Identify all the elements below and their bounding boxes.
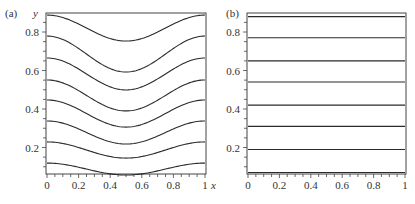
tick-marks xyxy=(243,22,405,178)
x-tick-label: 0 xyxy=(44,179,50,191)
y-tick-label: 0.4 xyxy=(25,103,39,115)
x-tick-label: 0.2 xyxy=(273,179,287,191)
panel-a: 00.20.40.60.810.20.40.60.8(a)yx xyxy=(5,7,216,191)
contour-line xyxy=(47,15,205,41)
contour-line xyxy=(47,58,205,90)
x-tick-label: 0.8 xyxy=(167,179,181,191)
x-tick-label: 0.2 xyxy=(72,179,86,191)
panel-b: 00.20.40.60.810.20.40.60.8(b) xyxy=(226,7,408,191)
y-tick-label: 0.2 xyxy=(25,142,39,154)
plot-frame xyxy=(46,13,206,174)
panel-label: (b) xyxy=(226,7,239,20)
y-tick-label: 0.6 xyxy=(25,65,39,77)
y-tick-label: 0.8 xyxy=(226,26,240,38)
figure: 00.20.40.60.810.20.40.60.8(a)yx00.20.40.… xyxy=(0,0,415,204)
x-tick-label: 0.8 xyxy=(367,179,381,191)
tick-marks xyxy=(42,22,205,178)
x-tick-label: 0.4 xyxy=(304,179,318,191)
y-tick-label: 0.2 xyxy=(226,142,240,154)
x-tick-label: 0 xyxy=(245,179,251,191)
contour-line xyxy=(47,80,205,111)
contour-line xyxy=(47,100,205,127)
panel-label: (a) xyxy=(5,7,18,20)
y-axis-label: y xyxy=(32,7,38,19)
x-tick-label: 0.6 xyxy=(335,179,349,191)
x-tick-label: 0.6 xyxy=(135,179,149,191)
contour-lines xyxy=(248,17,405,173)
y-tick-label: 0.6 xyxy=(226,65,240,77)
y-tick-label: 0.4 xyxy=(226,103,240,115)
contour-lines xyxy=(47,15,205,175)
x-tick-label: 0.4 xyxy=(103,179,117,191)
y-tick-label: 0.8 xyxy=(25,26,39,38)
contour-line xyxy=(47,163,205,175)
x-tick-label: 1 xyxy=(402,179,408,191)
x-tick-label: 1 xyxy=(202,179,208,191)
contour-line xyxy=(47,121,205,144)
x-axis-label: x xyxy=(210,179,216,191)
